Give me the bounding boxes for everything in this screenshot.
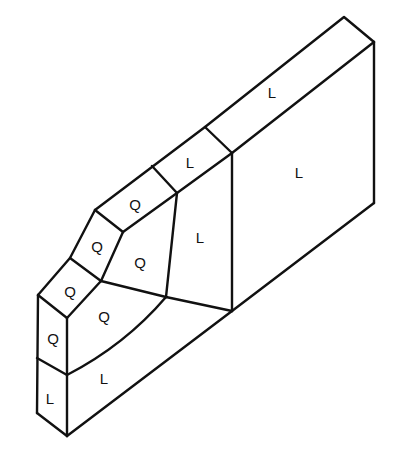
element-label: Q: [47, 331, 59, 346]
element-label: Q: [91, 239, 103, 254]
mesh-diagram: L L L Q L Q Q Q Q Q L L: [0, 0, 398, 466]
element-label: L: [295, 165, 303, 180]
element-label: Q: [98, 309, 110, 324]
element-label: L: [46, 391, 54, 406]
element-label: L: [186, 155, 194, 170]
element-label: L: [196, 230, 204, 245]
element-label: Q: [64, 284, 76, 299]
element-label: L: [268, 85, 276, 100]
element-label: Q: [134, 255, 146, 270]
element-label: Q: [129, 197, 141, 212]
element-label: L: [100, 371, 108, 386]
